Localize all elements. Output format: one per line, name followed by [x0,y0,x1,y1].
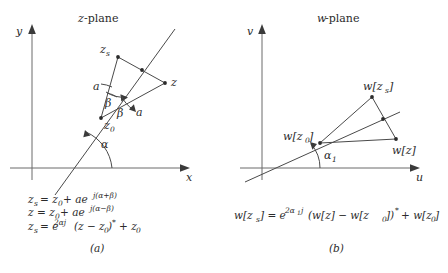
eq3-lhs: z [27,220,34,232]
w-plane-point-wz [394,137,398,141]
z-plane-x-axis [10,164,190,172]
eqw-4: ]) [385,209,394,221]
w-plane-label-wz0-close: ] [308,130,314,143]
z-plane-point-zs [116,55,120,59]
z-plane-a-label-lower: a [136,106,143,119]
z-plane-label-z0: z 0 [103,119,115,134]
w-plane-v-axis-label: v [247,25,254,38]
w-plane-alpha-ray [245,112,400,182]
w-plane-u-axis [240,164,420,172]
z-plane-x-axis-label: x [186,171,193,184]
w-plane-u-axis-label: u [416,171,423,184]
z-plane-label-zs-base: z [99,43,106,56]
z-plane-alpha-label: α [101,138,109,151]
w-plane-v-axis [258,24,266,180]
w-plane-alpha1-label: α 1 [324,149,337,164]
eqw-6: ] [434,209,440,221]
z-plane-panel: y x α a [10,12,193,254]
z-plane-a-label-upper: a [93,80,100,93]
z-plane-point-z [163,81,167,85]
w-plane-alpha1-base: α [324,149,332,162]
eqw-2: ] = e [259,209,286,221]
eq2-rhs2: + ae [60,206,85,218]
eq1-rhs: = z [40,193,58,205]
z-plane-a-arrow-lower [129,104,136,112]
z-plane-label-z0-base: z [103,119,110,132]
w-plane-label-wzs-close: ] [388,80,394,93]
w-plane-label-wz: w[z] [392,144,417,157]
eq2-exp: j(α−β) [88,204,114,213]
eq1-rhs2: + ae [63,193,88,205]
eq1-exp: j(α+β) [91,191,117,200]
z-plane-alpha-ray [55,29,175,195]
z-plane-point-z0 [99,116,103,120]
eq2-rhs: = z [37,206,55,218]
w-plane-title-rest: -plane [325,12,359,25]
z-plane-label-zs-sub: s [106,49,110,58]
w-plane-point-mid [381,117,385,121]
figure-container: y x α a [0,0,448,273]
eqw-star: * [395,206,399,215]
w-plane-title: w -plane [317,12,359,25]
z-plane-equation-3: z s = e 2αj (z − z 0 ) * + z 0 [27,218,141,235]
w-plane-alpha1-sub: 1 [332,155,337,164]
w-plane-alpha1-arrow [310,142,317,150]
eq3-star: * [112,218,116,227]
w-plane-equation: w[z s ] = e 2α 1 j (w[z] − w[z 0 ]) * + … [234,206,440,224]
w-plane-label-wz0-open: w[z [283,130,303,143]
z-plane-title: z -plane [77,12,118,25]
eq3-tail3-sub: 0 [136,226,141,235]
w-plane-label-wzs: w[z s ] [363,80,394,95]
z-plane-equation-2: z = z 0 + ae j(α−β) [27,204,114,221]
z-plane-y-axis-label: y [15,25,23,38]
eq3-exp: 2αj [53,218,67,227]
w-plane-panel: v u α 1 [234,12,440,254]
z-plane-point-mid [140,68,144,72]
eq3-tail3: + z [119,220,137,232]
eq3-lhs-sub: s [34,226,38,235]
eq1-lhs: z [27,193,34,205]
w-plane-caption: (b) [329,242,344,254]
z-plane-label-z0-sub: 0 [110,125,115,134]
z-plane-label-z: z [170,76,177,89]
eq2-lhs: z [27,206,34,218]
w-plane-seg-wz0-wz [320,139,396,143]
eqw-3: (w[z] − w[z [308,209,369,221]
eqw-exp: 2α [284,206,295,215]
eqw-5: + w[z [401,209,432,221]
figure-svg: y x α a [0,0,448,273]
z-plane-beta-label-upper: β [104,97,111,110]
eq3-tail: (z − z [74,220,105,232]
eqw-1: w[z [234,209,253,221]
z-plane-title-rest: -plane [84,12,118,25]
z-plane-label-zs: z s [99,43,110,58]
z-plane-caption: (a) [90,242,104,254]
w-plane-label-wz0: w[z 0 ] [283,130,314,145]
z-plane-title-italic: z [77,12,84,25]
z-plane-beta-label-lower: β [116,107,123,120]
w-plane-point-wz0 [318,141,322,145]
z-plane-y-axis [28,24,36,180]
w-plane-point-wzs [370,95,374,99]
w-plane-label-wzs-open: w[z [363,80,383,93]
